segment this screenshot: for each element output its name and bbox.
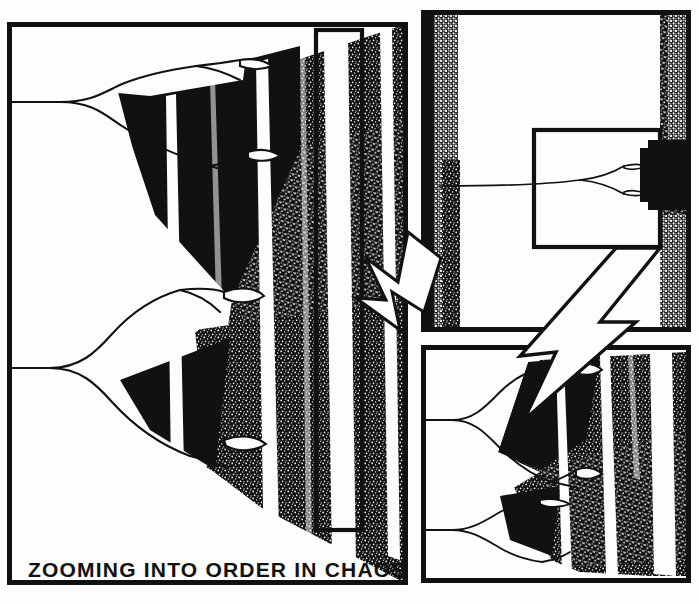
top-right-panel-content bbox=[426, 15, 686, 327]
bifurcation-illustration: ZOOMING INTO ORDER IN CHAOS bbox=[0, 0, 699, 604]
caption-text: ZOOMING INTO ORDER IN CHAOS bbox=[28, 558, 407, 581]
comic-figure: ZOOMING INTO ORDER IN CHAOS bbox=[0, 0, 699, 604]
